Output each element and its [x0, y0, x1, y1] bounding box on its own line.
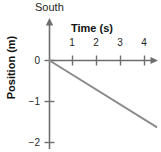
y-tick-label-0: 0 [22, 56, 40, 66]
x-tick-label-4: 4 [137, 38, 151, 48]
position-time-chart: South Time (s) Position (m) 1 2 3 4 0 −1… [0, 0, 161, 152]
direction-label: South [35, 2, 64, 13]
x-axis-title: Time (s) [71, 23, 113, 34]
x-tick-label-1: 1 [65, 38, 79, 48]
y-axis-up-arrow-icon [46, 18, 53, 26]
y-tick-label-minus-1: −1 [22, 97, 40, 107]
x-tick-label-2: 2 [89, 38, 103, 48]
data-series-position-line [50, 61, 157, 127]
y-tick-label-minus-2: −2 [22, 138, 40, 148]
x-axis-right-arrow-icon [151, 57, 159, 64]
x-tick-label-3: 3 [113, 38, 127, 48]
y-axis-title: Position (m) [6, 36, 17, 100]
